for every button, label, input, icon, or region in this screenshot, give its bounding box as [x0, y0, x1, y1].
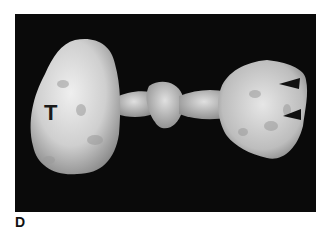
specimen-illustration: [15, 14, 316, 212]
specimen-photo: T: [15, 14, 316, 212]
middle-knob: [147, 82, 184, 128]
right-mass: [218, 60, 307, 159]
panel-label: D: [15, 215, 25, 229]
tumor-label: T: [44, 102, 57, 124]
